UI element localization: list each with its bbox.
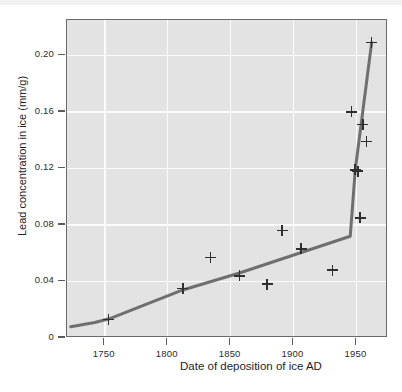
y-axis-tick-label: 0.04 xyxy=(35,274,54,285)
y-axis-tick-label: 0 xyxy=(49,331,54,342)
x-axis-tick-mark xyxy=(229,338,230,345)
chart-figure: Lead concentration in ice (mm/g) Date of… xyxy=(0,0,402,392)
plot-area xyxy=(66,19,387,337)
trend-line xyxy=(67,20,388,338)
x-axis-tick-mark xyxy=(166,338,167,345)
y-axis-tick-label: 0.12 xyxy=(35,161,54,172)
y-axis-tick-label: 0.20 xyxy=(35,48,54,59)
x-axis-tick-label: 1900 xyxy=(263,348,323,359)
y-axis-tick-label: 0.08 xyxy=(35,218,54,229)
x-axis-tick-mark xyxy=(355,338,356,345)
x-axis-tick-label: 1950 xyxy=(326,348,386,359)
y-axis-tick-mark xyxy=(58,167,65,168)
x-axis-tick-mark xyxy=(103,338,104,345)
scan-artifact-band xyxy=(0,0,402,5)
y-axis-title: Lead concentration in ice (mm/g) xyxy=(16,41,28,271)
y-axis-tick-mark xyxy=(58,280,65,281)
y-axis-tick-label: 0.16 xyxy=(35,105,54,116)
x-axis-title: Date of deposition of ice AD xyxy=(180,360,322,372)
x-axis-tick-label: 1850 xyxy=(200,348,260,359)
y-axis-tick-mark xyxy=(58,54,65,55)
x-axis-tick-mark xyxy=(292,338,293,345)
y-axis-tick-mark xyxy=(58,223,65,224)
y-axis-tick-mark xyxy=(58,110,65,111)
x-axis-tick-label: 1800 xyxy=(137,348,197,359)
x-axis-tick-label: 1750 xyxy=(74,348,134,359)
y-axis-tick-mark xyxy=(58,336,65,337)
